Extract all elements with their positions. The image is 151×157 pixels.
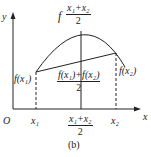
x-axis-arrow-icon [134,107,141,112]
midpoint-tick-label: x₁+x₂ 2 [68,114,93,137]
f-midpoint-prefix: f [58,10,61,22]
f-x2-label: f(x₂) [119,66,136,76]
x2-tick-label: x₂ [111,116,119,126]
f-x1-label: f(x₁) [14,74,31,84]
f-midpoint-label: x₁+x₂ 2 [66,3,91,26]
x-axis-label: x [143,112,147,122]
x1-tick-label: x₁ [31,116,39,126]
average-value-label: f(x₁)+f(x₂) 2 [57,70,100,93]
y-axis-label: y [2,12,6,22]
origin-label: O [3,116,10,126]
figure-caption: (b) [68,140,80,150]
y-axis-arrow-icon [11,12,16,19]
